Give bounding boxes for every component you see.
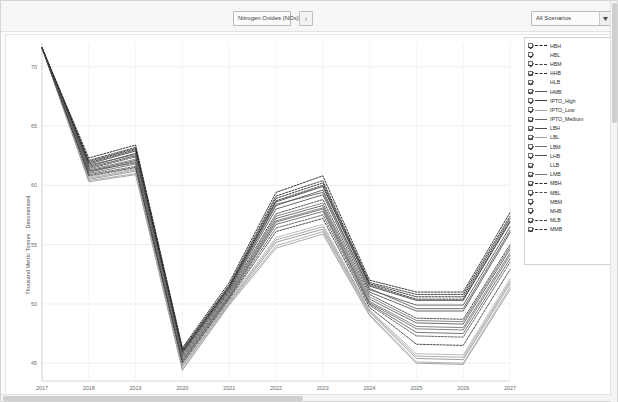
legend-checkbox[interactable] (528, 135, 533, 140)
legend-item-label: LMB (550, 170, 561, 178)
legend-line-swatch (535, 62, 547, 66)
legend-item-hlb[interactable]: HLB (528, 78, 611, 87)
legend-checkbox[interactable] (528, 181, 533, 186)
legend-checkbox[interactable] (528, 199, 533, 204)
legend-item-lhb[interactable]: LHB (528, 151, 611, 160)
svg-text:2017: 2017 (36, 385, 48, 391)
legend-checkbox[interactable] (528, 117, 533, 122)
legend-item-ipto_high[interactable]: IPTO_High (528, 96, 611, 105)
line-chart-svg: 4550556065702017201820192020202120222023… (6, 35, 522, 399)
legend-item-mhb[interactable]: MHB (528, 206, 611, 215)
svg-text:2026: 2026 (457, 385, 469, 391)
svg-text:2024: 2024 (364, 385, 376, 391)
legend-line-swatch (535, 154, 547, 158)
legend-checkbox[interactable] (528, 107, 533, 112)
legend-item-llb[interactable]: LLB (528, 160, 611, 169)
scenario-select-value: All Scenarios (536, 12, 599, 25)
legend-checkbox[interactable] (528, 172, 533, 177)
legend-item-lbm[interactable]: LBM (528, 142, 611, 151)
legend-item-label: HBM (550, 60, 562, 68)
legend-item-lbh[interactable]: LBH (528, 124, 611, 133)
legend-item-label: LHB (550, 152, 560, 160)
legend-item-ipto_medium[interactable]: IPTO_Medium (528, 115, 611, 124)
chart-panel: Thousand Metric Tonnes : Denominated 455… (5, 34, 615, 400)
legend-item-hhb[interactable]: HHB (528, 69, 611, 78)
legend-item-mbm[interactable]: MBM (528, 197, 611, 206)
legend-item-mbl[interactable]: MBL (528, 188, 611, 197)
legend-item-lbl[interactable]: LBL (528, 133, 611, 142)
pollutant-select[interactable]: Nitrogen Oxides (NOx) (233, 11, 291, 26)
legend-line-swatch (535, 99, 547, 103)
legend-item-ipto_low[interactable]: IPTO_Low (528, 105, 611, 114)
legend-checkbox[interactable] (528, 227, 533, 232)
chart-viewer-window: Nitrogen Oxides (NOx) i All Scenarios Th… (0, 0, 618, 402)
legend-item-mbh[interactable]: MBH (528, 179, 611, 188)
svg-text:60: 60 (31, 182, 37, 188)
legend-item-label: MHB (550, 207, 562, 215)
series-legend[interactable]: HBHHBLHBMHHBHLBHMBIPTO_HighIPTO_LowIPTO_… (524, 37, 614, 265)
legend-item-label: IPTO_Low (550, 106, 574, 114)
svg-text:2018: 2018 (83, 385, 95, 391)
legend-checkbox[interactable] (528, 190, 533, 195)
legend-item-hmb[interactable]: HMB (528, 87, 611, 96)
vertical-scrollbar-thumb[interactable] (612, 3, 617, 123)
legend-checkbox[interactable] (528, 52, 533, 57)
legend-item-lmb[interactable]: LMB (528, 170, 611, 179)
legend-item-label: LBL (550, 133, 559, 141)
legend-item-label: LBH (550, 124, 560, 132)
legend-line-swatch (535, 135, 547, 139)
legend-line-swatch (535, 163, 547, 167)
svg-text:50: 50 (31, 301, 37, 307)
scenario-select[interactable]: All Scenarios (531, 11, 611, 26)
legend-checkbox[interactable] (528, 153, 533, 158)
legend-item-mmb[interactable]: MMB (528, 225, 611, 234)
legend-checkbox[interactable] (528, 144, 533, 149)
legend-checkbox[interactable] (528, 71, 533, 76)
legend-item-mlb[interactable]: MLB (528, 216, 611, 225)
svg-text:2022: 2022 (270, 385, 282, 391)
legend-item-hbl[interactable]: HBL (528, 50, 611, 59)
legend-item-label: LLB (550, 161, 559, 169)
plot-area: Thousand Metric Tonnes : Denominated 455… (6, 35, 522, 399)
legend-line-swatch (535, 126, 547, 130)
svg-text:45: 45 (31, 360, 37, 366)
chevron-down-icon[interactable] (599, 12, 610, 25)
legend-item-label: HBH (550, 42, 561, 50)
vertical-scrollbar[interactable] (610, 1, 617, 402)
legend-checkbox[interactable] (528, 43, 533, 48)
svg-text:55: 55 (31, 242, 37, 248)
legend-checkbox[interactable] (528, 163, 533, 168)
legend-item-hbh[interactable]: HBH (528, 41, 611, 50)
pollutant-select-value: Nitrogen Oxides (NOx) (238, 12, 299, 25)
legend-line-swatch (535, 117, 547, 121)
svg-text:70: 70 (31, 64, 37, 70)
legend-item-label: IPTO_Medium (550, 115, 583, 123)
info-button[interactable]: i (299, 11, 313, 26)
legend-checkbox[interactable] (528, 61, 533, 66)
legend-checkbox[interactable] (528, 89, 533, 94)
svg-text:2023: 2023 (317, 385, 329, 391)
svg-text:2020: 2020 (176, 385, 188, 391)
horizontal-scrollbar-thumb[interactable] (3, 396, 303, 401)
legend-item-hbm[interactable]: HBM (528, 59, 611, 68)
legend-checkbox[interactable] (528, 80, 533, 85)
info-button-label: i (305, 16, 306, 22)
legend-line-swatch (535, 172, 547, 176)
legend-item-label: MMB (550, 225, 562, 233)
legend-line-swatch (535, 200, 547, 204)
toolbar: Nitrogen Oxides (NOx) i All Scenarios (1, 1, 617, 32)
legend-item-label: MLB (550, 216, 561, 224)
legend-line-swatch (535, 145, 547, 149)
legend-checkbox[interactable] (528, 126, 533, 131)
legend-line-swatch (535, 90, 547, 94)
legend-item-label: MBH (550, 179, 562, 187)
svg-text:2027: 2027 (504, 385, 516, 391)
horizontal-scrollbar[interactable] (1, 394, 612, 401)
svg-text:2019: 2019 (130, 385, 142, 391)
legend-checkbox[interactable] (528, 98, 533, 103)
legend-item-label: IPTO_High (550, 97, 576, 105)
svg-text:2025: 2025 (410, 385, 422, 391)
legend-checkbox[interactable] (528, 208, 533, 213)
legend-checkbox[interactable] (528, 218, 533, 223)
legend-line-swatch (535, 181, 547, 185)
